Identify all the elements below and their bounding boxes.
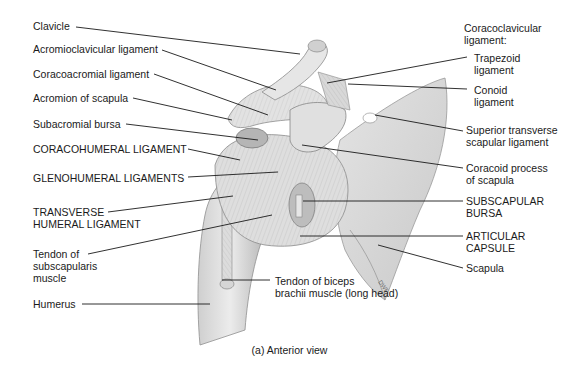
anatomy-figure: DWF Clavicle Acromioclavicular ligament … [0,0,579,385]
label-humerus: Humerus [33,298,76,310]
label-biceps-tendon: Tendon of biceps brachii muscle (long he… [275,275,398,299]
label-coracoclavicular-ligament: Coracoclavicular ligament: [464,22,542,46]
leader-line-conoid [348,84,467,89]
label-conoid-ligament: Conoid ligament [474,84,514,108]
label-trapezoid-ligament: Trapezoid ligament [474,52,520,76]
label-subscapular-bursa: SUBSCAPULAR BURSA [466,195,544,219]
label-coracoid-process: Coracoid process of scapula [466,162,548,186]
label-glenohumeral-ligaments: GLENOHUMERAL LIGAMENTS [33,172,184,184]
leader-line-trapezoid [327,57,467,83]
capsule-shape [215,135,348,247]
label-coracohumeral-ligament: CORACOHUMERAL LIGAMENT [33,143,187,155]
label-clavicle: Clavicle [33,20,70,32]
leader-line-acromioclavicular [162,50,276,90]
figure-caption: (a) Anterior view [0,344,579,356]
label-scapula: Scapula [466,262,504,274]
label-acromioclavicular-ligament: Acromioclavicular ligament [33,43,158,55]
leader-line-acromion [133,98,232,120]
scapula-shape [335,78,447,300]
label-transverse-humeral-ligament: TRANSVERSE HUMERAL LIGAMENT [33,206,141,230]
label-coracoacromial-ligament: Coracoacromial ligament [33,68,149,80]
label-subscapularis-tendon: Tendon of subscapularis muscle [33,248,97,284]
label-acromion-of-scapula: Acromion of scapula [33,92,128,104]
label-superior-transverse-scapular-ligament: Superior transverse scapular ligament [466,124,558,148]
label-subacromial-bursa: Subacromial bursa [33,118,121,130]
label-articular-capsule: ARTICULAR CAPSULE [466,230,525,254]
